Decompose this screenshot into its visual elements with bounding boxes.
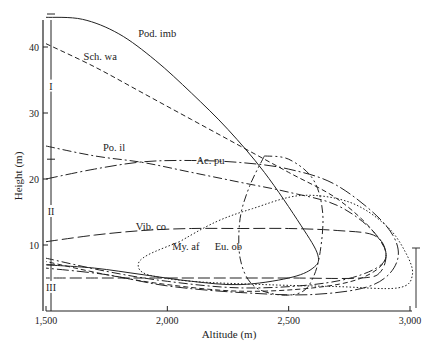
- species-labels: Pod. imbSch. waPo. ilAc. puVib. coMy. af…: [84, 28, 242, 252]
- series-curve-eu-ob: [239, 156, 323, 295]
- species-label: Po. il: [103, 142, 125, 153]
- x-tick-label: 2,500: [277, 315, 300, 326]
- y-axis-title: Height (m): [12, 151, 25, 200]
- altitude-height-chart: 1,5002,0002,5003,000 10203040 IIIIII Pod…: [0, 0, 434, 354]
- zone-label: I: [49, 81, 52, 92]
- x-ticks: 1,5002,0002,5003,000: [35, 306, 422, 326]
- species-label: Pod. imb: [138, 28, 176, 39]
- series-curve-po-il: [46, 146, 386, 288]
- species-label: Ac. pu: [196, 155, 225, 166]
- species-label: My. af: [172, 241, 200, 252]
- y-tick-label: 40: [29, 42, 39, 53]
- zone-label: II: [48, 206, 55, 217]
- series-curve-ac-pu: [46, 160, 398, 294]
- series-curve-sch-wa: [46, 44, 386, 292]
- y-tick-label: 30: [29, 108, 39, 119]
- x-tick-label: 2,000: [156, 315, 179, 326]
- x-tick-label: 1,500: [35, 315, 58, 326]
- species-label: Sch. wa: [84, 51, 118, 62]
- axes: [43, 20, 420, 311]
- y-ticks: 10203040: [29, 42, 48, 251]
- species-label: Vib. co: [136, 221, 166, 232]
- zone-label: III: [46, 282, 56, 293]
- x-axis-title: Altitude (m): [202, 328, 257, 341]
- y-tick-label: 10: [29, 240, 39, 251]
- species-label: Eu. ob: [215, 241, 242, 252]
- chart-canvas: 1,5002,0002,5003,000 10203040 IIIIII Pod…: [0, 0, 434, 354]
- series-curve-vib-co: [46, 228, 386, 278]
- y-tick-label: 20: [29, 174, 39, 185]
- x-tick-label: 3,000: [399, 315, 422, 326]
